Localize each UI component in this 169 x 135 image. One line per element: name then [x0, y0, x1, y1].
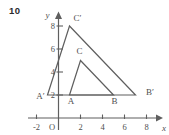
y-tick-label: 6 [51, 44, 55, 54]
x-tick-label: 8 [144, 122, 148, 132]
vertex-label-C′: C′ [74, 13, 82, 23]
problem-number: 10 [9, 5, 21, 16]
figure-panel: 10 -224682468OxyABCA′B′C′ [0, 0, 169, 135]
origin-label: O [49, 122, 55, 132]
x-tick-label: 6 [122, 122, 126, 132]
x-tick-label: 4 [100, 122, 105, 132]
x-tick-label: -2 [33, 122, 40, 132]
vertex-label-C: C [76, 46, 82, 56]
y-axis-label: y [45, 10, 50, 20]
y-tick-label: 8 [51, 21, 55, 31]
x-axis-label: x [161, 123, 166, 133]
x-axis-arrow-icon [156, 115, 163, 122]
triangle-1 [48, 26, 136, 95]
vertex-label-A′: A′ [36, 91, 44, 101]
x-tick-label: 2 [78, 122, 82, 132]
y-axis-arrow-icon [55, 12, 62, 20]
figure-svg: -224682468OxyABCA′B′C′ [0, 0, 169, 135]
vertex-label-B′: B′ [146, 87, 154, 97]
vertex-label-A: A [68, 96, 75, 106]
vertex-label-B: B [111, 96, 117, 106]
